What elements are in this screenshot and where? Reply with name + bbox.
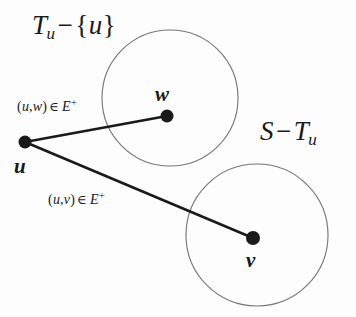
region-label-operator-2: − xyxy=(276,116,292,146)
vertex-dot-w xyxy=(161,110,174,123)
edge-label-head: w xyxy=(33,99,43,114)
vertex-label-u: u xyxy=(14,156,26,177)
region-label-subscript: u xyxy=(47,24,56,43)
diagram-canvas xyxy=(0,0,356,317)
region-label-s-minus-tu: S−Tu xyxy=(260,118,317,148)
edge-line-u-w xyxy=(25,116,167,142)
region-label-set-open: { xyxy=(75,10,88,40)
edge-label-set-2: E xyxy=(90,192,99,207)
vertex-label-w: w xyxy=(155,84,169,105)
region-label-second-subscript: u xyxy=(308,130,317,149)
edge-label-set: E xyxy=(62,99,71,114)
figure-container: Tu−{u} S−Tu (u,w)∈E+ (u,v)∈E+ u w v xyxy=(0,0,356,317)
vertex-label-v: v xyxy=(246,250,255,271)
edge-label-tail-2: u xyxy=(53,192,60,207)
region-label-second: T xyxy=(294,116,310,146)
region-label-set-member: u xyxy=(89,10,103,40)
edge-label-element-of-icon-2: ∈ xyxy=(77,192,87,207)
region-circle-tu-minus-u xyxy=(102,30,238,166)
edge-label-paren-close-2: ) xyxy=(70,192,75,207)
region-label-set-close: } xyxy=(103,10,116,40)
edge-label-superscript: + xyxy=(71,96,77,108)
edge-label-paren-close: ) xyxy=(42,99,47,114)
edge-label-tail: u xyxy=(22,99,29,114)
edge-label-superscript-2: + xyxy=(99,189,105,201)
region-label-base-2: S xyxy=(260,116,274,146)
region-label-tu-minus-u: Tu−{u} xyxy=(32,12,116,42)
region-label-operator: − xyxy=(58,10,74,40)
edge-label-u-v: (u,v)∈E+ xyxy=(48,190,105,207)
region-label-base: T xyxy=(32,10,48,40)
edge-label-u-w: (u,w)∈E+ xyxy=(17,97,77,114)
edge-label-element-of-icon: ∈ xyxy=(49,99,59,114)
vertex-dot-u xyxy=(19,136,32,149)
vertex-dot-v xyxy=(246,231,260,245)
